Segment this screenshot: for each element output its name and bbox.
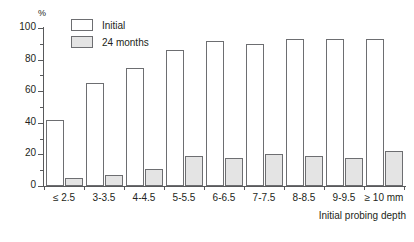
y-tick-major: [38, 186, 43, 187]
y-tick-minor: [40, 44, 43, 45]
x-category-label: 6-6.5: [204, 192, 244, 203]
chart-legend: Initial 24 months: [71, 19, 149, 53]
bar: [185, 156, 203, 186]
y-tick-major: [38, 91, 43, 92]
y-tick-label: 20: [6, 148, 36, 158]
x-tick: [204, 186, 205, 190]
bar: [225, 158, 243, 186]
x-tick: [244, 186, 245, 190]
y-tick-major: [38, 28, 43, 29]
x-category-label: 5-5.5: [164, 192, 204, 203]
x-tick: [404, 186, 405, 190]
y-tick-minor: [40, 75, 43, 76]
legend-swatch-initial: [71, 19, 93, 31]
bar: [385, 151, 403, 186]
legend-label-24-months: 24 months: [102, 37, 149, 48]
bar: [286, 39, 304, 186]
y-tick-label: 100: [6, 22, 36, 32]
y-tick-label: 0: [6, 180, 36, 190]
y-tick-label: 80: [6, 54, 36, 64]
bar: [345, 158, 363, 186]
bar: [46, 120, 64, 186]
y-tick-major: [38, 123, 43, 124]
x-axis-line: [43, 186, 406, 187]
legend-swatch-24-months: [71, 36, 93, 48]
y-tick-minor: [40, 107, 43, 108]
x-tick: [44, 186, 45, 190]
x-category-label: 3-3.5: [84, 192, 124, 203]
bar: [246, 44, 264, 186]
x-category-label: 7-7.5: [244, 192, 284, 203]
x-tick: [84, 186, 85, 190]
y-tick-label: 40: [6, 117, 36, 127]
x-tick: [364, 186, 365, 190]
bar: [206, 41, 224, 186]
x-category-label: 8-8.5: [284, 192, 324, 203]
legend-item-24-months: 24 months: [71, 36, 149, 48]
x-tick: [324, 186, 325, 190]
bar: [326, 39, 344, 186]
bar: [65, 178, 83, 186]
x-tick: [124, 186, 125, 190]
bar: [166, 50, 184, 186]
x-tick: [164, 186, 165, 190]
x-axis-title: Initial probing depth: [319, 210, 406, 221]
bar: [305, 156, 323, 186]
legend-item-initial: Initial: [71, 19, 149, 31]
x-category-label: 4-4.5: [124, 192, 164, 203]
y-tick-label: 60: [6, 85, 36, 95]
y-tick-minor: [40, 170, 43, 171]
bar: [126, 68, 144, 187]
x-category-label: ≤ 2.5: [44, 192, 84, 203]
y-tick-major: [38, 60, 43, 61]
x-tick: [284, 186, 285, 190]
y-tick-major: [38, 154, 43, 155]
x-category-label: 9-9.5: [324, 192, 364, 203]
bar-chart: % 020406080100 ≤ 2.53-3.54-4.55-5.56-6.5…: [0, 0, 414, 242]
bar: [86, 83, 104, 186]
y-tick-minor: [40, 139, 43, 140]
y-axis-unit-label: %: [38, 8, 46, 18]
bar: [366, 39, 384, 186]
legend-label-initial: Initial: [102, 20, 125, 31]
bar: [145, 169, 163, 186]
bar: [105, 175, 123, 186]
bar: [265, 154, 283, 186]
x-category-label: ≥ 10 mm: [364, 192, 404, 203]
